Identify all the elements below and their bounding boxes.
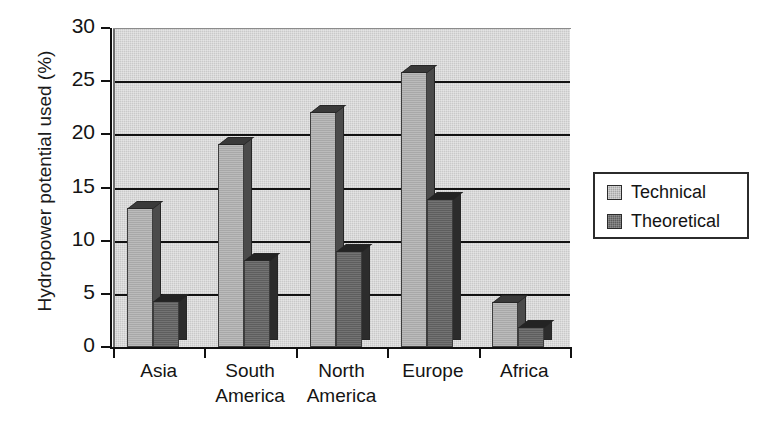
x-category-label: NorthAmerica bbox=[296, 358, 387, 408]
y-tick-label: 20 bbox=[55, 120, 95, 144]
y-tick-mark bbox=[101, 293, 110, 295]
bar-front-face bbox=[153, 301, 179, 347]
legend-label-theoretical: Theoretical bbox=[631, 211, 720, 232]
bar-side-face bbox=[361, 244, 370, 340]
bar bbox=[244, 253, 279, 347]
x-tick-mark bbox=[113, 347, 115, 358]
bar-front-face bbox=[218, 144, 244, 347]
y-tick-label: 30 bbox=[55, 14, 95, 38]
x-category-label: Asia bbox=[113, 358, 204, 383]
bar bbox=[427, 192, 462, 347]
x-category-label: Europe bbox=[387, 358, 478, 383]
x-tick-mark bbox=[570, 347, 572, 358]
y-axis-line bbox=[110, 28, 112, 349]
legend-swatch-theoretical bbox=[607, 214, 622, 229]
gridline bbox=[113, 81, 570, 83]
y-axis-title: Hydropower potential used (%) bbox=[34, 11, 56, 351]
legend-label-technical: Technical bbox=[631, 182, 706, 203]
legend-entry-theoretical: Theoretical bbox=[607, 210, 720, 232]
bar-front-face bbox=[427, 199, 453, 347]
x-axis-line bbox=[110, 347, 571, 349]
x-tick-mark bbox=[479, 347, 481, 358]
plot-left-wall bbox=[113, 28, 115, 349]
x-tick-mark bbox=[296, 347, 298, 358]
bar bbox=[336, 244, 371, 347]
bar-front-face bbox=[492, 302, 518, 347]
y-tick-mark bbox=[101, 133, 110, 135]
y-tick-mark bbox=[101, 346, 110, 348]
bar-side-face bbox=[269, 253, 278, 340]
bar-side-face bbox=[452, 192, 461, 340]
x-tick-mark bbox=[387, 347, 389, 358]
bar-front-face bbox=[401, 72, 427, 347]
y-tick-label: 10 bbox=[55, 227, 95, 251]
legend-entry-technical: Technical bbox=[607, 181, 706, 203]
y-tick-label: 5 bbox=[55, 280, 95, 304]
x-tick-mark bbox=[204, 347, 206, 358]
y-tick-mark bbox=[101, 27, 110, 29]
bar-front-face bbox=[127, 208, 153, 347]
bar-front-face bbox=[310, 112, 336, 347]
bar bbox=[153, 294, 188, 347]
y-tick-label: 15 bbox=[55, 174, 95, 198]
bar bbox=[518, 320, 553, 347]
y-tick-label: 25 bbox=[55, 67, 95, 91]
bar-front-face bbox=[336, 251, 362, 347]
bar-chart: Hydropower potential used (%) 0510152025… bbox=[0, 0, 782, 440]
x-category-label: Africa bbox=[479, 358, 570, 383]
y-tick-mark bbox=[101, 80, 110, 82]
legend-swatch-technical bbox=[607, 185, 622, 200]
chart-legend: Technical Theoretical bbox=[593, 172, 749, 239]
x-category-label: SouthAmerica bbox=[204, 358, 295, 408]
bar-front-face bbox=[518, 327, 544, 347]
y-tick-label: 0 bbox=[55, 333, 95, 357]
bar-front-face bbox=[244, 260, 270, 347]
plot-top-edge bbox=[113, 28, 571, 29]
y-tick-mark bbox=[101, 240, 110, 242]
y-tick-mark bbox=[101, 187, 110, 189]
